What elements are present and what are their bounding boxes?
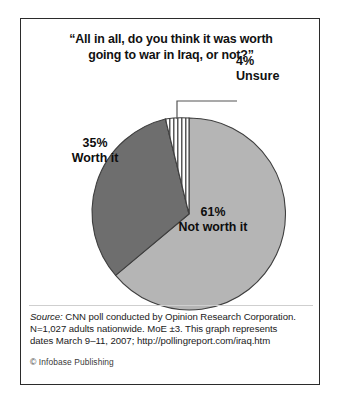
source-divider xyxy=(29,305,313,306)
source-prefix: Source: xyxy=(30,311,63,322)
pie-chart xyxy=(21,63,319,311)
source-note: Source: CNN poll conducted by Opinion Re… xyxy=(30,311,316,348)
unsure-callout-label: 4% Unsure xyxy=(236,54,320,83)
chart-title-line-1: “All in all, do you think it was worth xyxy=(29,32,313,48)
source-line-3: dates March 9–11, 2007; http://pollingre… xyxy=(30,335,316,347)
worth-it-value: 35% xyxy=(43,136,147,151)
unsure-category: Unsure xyxy=(236,69,320,84)
copyright-text: Infobase Publishing xyxy=(36,357,113,367)
source-line-1-rest: CNN poll conducted by Opinion Research C… xyxy=(63,311,296,322)
not-worth-it-category: Not worth it xyxy=(149,220,277,235)
chart-frame: “All in all, do you think it was worth g… xyxy=(20,18,320,385)
not-worth-it-value: 61% xyxy=(149,205,277,220)
source-line-2: N=1,027 adults nationwide. MoE ±3. This … xyxy=(30,323,316,335)
source-line-1: Source: CNN poll conducted by Opinion Re… xyxy=(30,311,316,323)
unsure-leader-line xyxy=(177,101,237,119)
copyright-credit: © Infobase Publishing xyxy=(30,357,114,367)
not-worth-it-slice-label: 61% Not worth it xyxy=(149,205,277,234)
worth-it-slice-label: 35% Worth it xyxy=(43,136,147,165)
pie-chart-svg xyxy=(21,63,319,311)
unsure-value: 4% xyxy=(236,54,320,69)
worth-it-category: Worth it xyxy=(43,151,147,166)
